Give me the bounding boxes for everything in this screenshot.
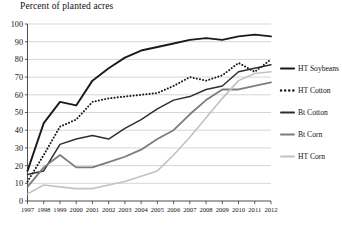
x-tick-label: 2008 <box>199 206 213 213</box>
y-tick-label: 100 <box>11 20 23 29</box>
y-tick-label: 50 <box>15 108 23 117</box>
x-tick-label: 2007 <box>183 206 197 213</box>
y-tick-label: 60 <box>15 91 23 100</box>
legend-label-ht-soybeans: HT Soybeans <box>298 64 339 73</box>
x-tick-label: 2010 <box>232 206 246 213</box>
x-tick-label: 2009 <box>216 206 230 213</box>
y-axis-ticks: 0102030405060708090100 <box>11 20 28 206</box>
x-tick-label: 2004 <box>135 206 149 213</box>
y-tick-label: 10 <box>15 179 23 188</box>
x-tick-label: 2011 <box>248 206 261 213</box>
series-line-ht-soybeans <box>28 35 272 171</box>
series-line-bt-corn <box>28 82 272 186</box>
x-tick-label: 1999 <box>53 206 67 213</box>
x-tick-label: 1997 <box>21 206 35 213</box>
x-tick-label: 2012 <box>264 206 277 213</box>
y-tick-label: 40 <box>15 126 23 135</box>
legend-label-ht-cotton: HT Cotton <box>298 86 331 95</box>
y-tick-label: 90 <box>15 38 23 47</box>
chart-legend: HT SoybeansHT CottonBt CottonBt CornHT C… <box>281 64 339 161</box>
legend-label-bt-corn: Bt Corn <box>298 130 322 139</box>
chart-container: Percent of planted acres 010203040506070… <box>0 0 342 227</box>
y-tick-label: 80 <box>15 55 23 64</box>
data-series <box>28 35 272 194</box>
legend-label-ht-corn: HT Corn <box>298 152 325 161</box>
y-tick-label: 30 <box>15 144 23 153</box>
series-line-ht-cotton <box>28 59 272 181</box>
x-tick-label: 2003 <box>118 206 132 213</box>
y-tick-label: 70 <box>15 73 23 82</box>
y-tick-label: 0 <box>19 197 23 206</box>
chart-plot-area: 0102030405060708090100 19971998199920002… <box>0 0 342 227</box>
x-tick-label: 2002 <box>102 206 115 213</box>
x-tick-label: 2006 <box>167 206 181 213</box>
x-tick-label: 2001 <box>86 206 99 213</box>
x-tick-label: 1998 <box>37 206 51 213</box>
x-tick-label: 2005 <box>151 206 165 213</box>
x-axis-ticks: 1997199819992000200120022003200420052006… <box>21 201 278 213</box>
legend-label-bt-cotton: Bt Cotton <box>298 108 328 117</box>
x-tick-label: 2000 <box>70 206 84 213</box>
y-tick-label: 20 <box>15 162 23 171</box>
